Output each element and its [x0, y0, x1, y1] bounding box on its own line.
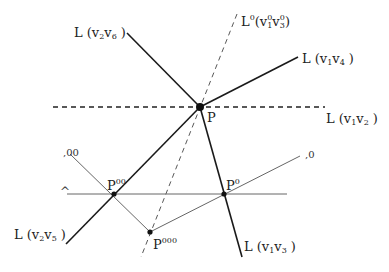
label-point-P: P	[207, 111, 216, 124]
line-thin-left	[70, 154, 150, 232]
label-point-P00: P00	[107, 178, 126, 192]
label-line-L0: L0(v10v30)	[241, 14, 290, 30]
label-line-v1v2: L (v1v2 )	[326, 112, 378, 127]
line-v1v4	[200, 57, 298, 107]
line-v2v6	[127, 33, 200, 107]
label-point-P000: P000	[153, 237, 177, 251]
line-L0	[141, 14, 237, 257]
label-line-v1v3: L (v1v3 )	[244, 240, 296, 255]
line-v2v5	[66, 107, 200, 244]
fragment-left-top: ,00	[63, 148, 79, 158]
point-P000	[147, 229, 152, 234]
point-P	[196, 103, 204, 111]
fragment-left-mid: ^	[60, 186, 70, 198]
label-line-v2v6: L (v2v6 )	[74, 26, 126, 41]
fragment-right: ,0	[305, 150, 315, 160]
label-point-P0: P0	[226, 178, 240, 192]
label-line-v2v5: L (v2v5 )	[14, 228, 66, 243]
label-line-v1v4: L (v1v4 )	[302, 52, 354, 67]
